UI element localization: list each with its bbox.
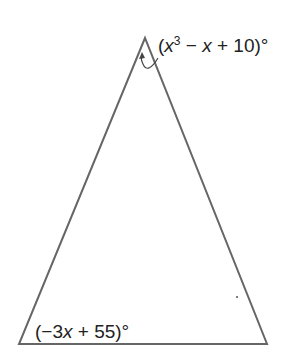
bottom-left-angle-label: (−3x + 55)° [35, 321, 129, 342]
apex-angle-label: (x3 − x + 10)° [158, 34, 268, 56]
stray-dot [236, 296, 238, 298]
arrowhead-icon [139, 52, 145, 59]
triangle-diagram: (x3 − x + 10)° (−3x + 55)° [0, 0, 295, 361]
triangle [19, 38, 267, 344]
